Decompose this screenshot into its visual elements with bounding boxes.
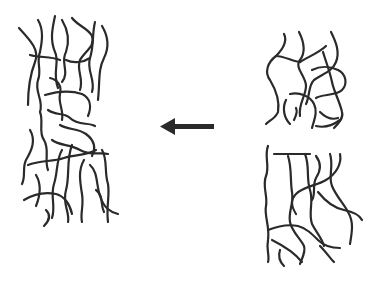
network-a [266, 32, 345, 128]
network-b [265, 146, 362, 266]
diagram-canvas [0, 0, 366, 287]
diagram-svg [0, 0, 366, 287]
combined-network [19, 16, 118, 226]
left-arrow-icon [160, 118, 214, 135]
